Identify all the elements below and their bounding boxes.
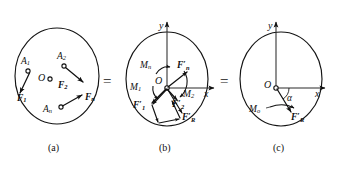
label-origin-o-a: O [38,73,45,83]
label-origin-o-b: O [155,76,162,86]
equals-sign-1: = [103,74,111,89]
label-origin-o-c: O [264,80,271,90]
force-vector-fn [63,95,83,106]
label-axis-y-c: y [268,21,272,31]
force-vector-f1-prime-b [152,89,166,103]
polygon-edge-3 [159,119,179,123]
label-force-resultant-prime-c: F′R [291,112,304,123]
force-vector-fn-prime-b [168,72,187,87]
caption-panel-a: (a) [48,143,59,153]
label-point-an: An [43,105,52,115]
label-force-fn-prime-b: F′n [177,60,189,71]
label-force-f2-a: F2 [58,81,68,91]
force-vector-f2 [66,68,84,83]
label-axis-y-b: y [159,21,163,31]
label-force-f2-prime-b: F′2 [172,99,184,110]
equals-sign-2: = [220,74,228,89]
caption-panel-c: (c) [273,143,284,153]
label-force-f1-prime-b: F′1 [133,100,145,111]
couple-arc-mo-c [270,105,294,108]
polygon-edge-2 [152,105,158,122]
label-force-f1-a: F1 [17,94,27,104]
label-point-a1: A1 [21,57,30,67]
label-point-a2: A2 [57,52,66,62]
label-angle-alpha: α [287,94,292,104]
label-moment-m1-b: M1 [130,83,141,93]
label-moment-mo-c: Mo [249,105,260,115]
label-force-fn-a: Fn [85,93,95,103]
label-axis-x-c: x [315,89,319,99]
panel-a-group [15,28,99,124]
force-system-reduction-figure: A1 A2 An O F1 F2 Fn (a) = y x O Mn M1 M2… [0,0,338,170]
force-vector-f1 [20,73,30,93]
moment-mo-leader-c [266,107,270,108]
couple-arc-mn-b [156,67,170,74]
label-axis-x-b: x [204,89,208,99]
label-moment-m2-b: M2 [183,90,194,100]
caption-panel-b: (b) [159,143,171,153]
label-force-resultant-prime-b: F′R [182,112,195,123]
point-o-marker-a [48,77,52,81]
label-moment-mn-b: Mn [140,61,151,71]
